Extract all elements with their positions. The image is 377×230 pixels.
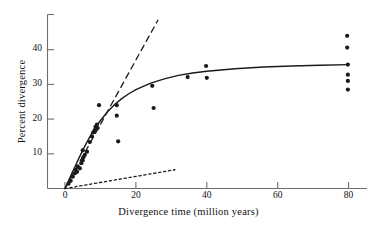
data-point xyxy=(81,148,85,152)
x-tick-label: 20 xyxy=(123,190,149,200)
data-point xyxy=(96,126,100,130)
data-point xyxy=(78,166,82,170)
data-point xyxy=(85,150,89,154)
data-point xyxy=(150,84,154,88)
upper-reference-line xyxy=(65,20,158,188)
data-point xyxy=(115,103,119,107)
y-tick-label: 20 xyxy=(20,113,42,123)
fitted-curves-layer xyxy=(65,20,349,188)
data-point xyxy=(345,34,349,38)
data-point xyxy=(345,46,349,50)
data-point xyxy=(115,114,119,118)
x-tick-label: 0 xyxy=(52,190,78,200)
y-tick-label: 10 xyxy=(20,147,42,157)
y-tick-label: 30 xyxy=(20,78,42,88)
data-point xyxy=(204,64,208,68)
data-point xyxy=(69,179,73,183)
saturating-fit-curve xyxy=(65,65,349,189)
x-tick-label: 40 xyxy=(194,190,220,200)
x-axis-tick-marks xyxy=(65,182,349,189)
y-tick-label: 40 xyxy=(20,43,42,53)
axis-spines xyxy=(48,15,368,189)
data-point xyxy=(346,88,350,92)
data-point xyxy=(75,170,79,174)
data-point xyxy=(205,76,209,80)
y-axis-tick-marks xyxy=(48,50,55,154)
data-point xyxy=(95,123,99,127)
data-point xyxy=(346,73,350,77)
x-tick-label: 80 xyxy=(336,190,362,200)
x-axis-title: Divergence time (million years) xyxy=(0,206,377,217)
data-point xyxy=(90,134,94,138)
data-point xyxy=(186,75,190,79)
data-point xyxy=(152,106,156,110)
data-point xyxy=(97,103,101,107)
x-tick-label: 60 xyxy=(265,190,291,200)
data-point xyxy=(116,139,120,143)
lower-reference-line xyxy=(65,170,175,189)
chart-figure: Divergence time (million years) Percent … xyxy=(0,0,377,230)
data-point xyxy=(88,140,92,144)
data-point xyxy=(71,175,75,179)
data-point xyxy=(346,63,350,67)
data-point xyxy=(346,79,350,83)
